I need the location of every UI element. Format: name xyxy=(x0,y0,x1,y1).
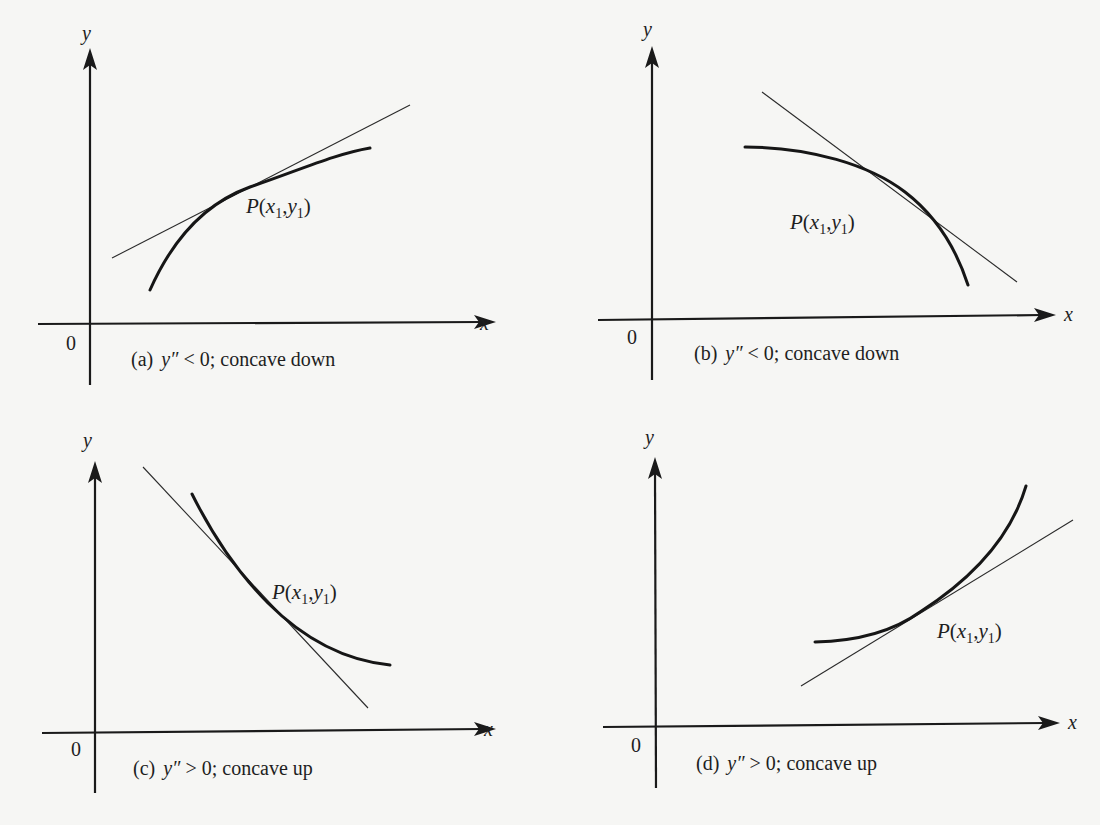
x-axis xyxy=(42,729,482,733)
x-axis-label: x xyxy=(483,718,493,740)
tangent-line xyxy=(801,520,1073,686)
x-axis xyxy=(38,322,482,324)
point-label: P(x1,y1) xyxy=(271,580,337,607)
panel-caption: (c)y″ > 0; concave up xyxy=(133,757,313,780)
panel-b: y x 0 P(x1,y1) (b)y″ < 0; concave down xyxy=(598,18,1073,380)
origin-label: 0 xyxy=(71,738,81,760)
point-label: P(x1,y1) xyxy=(245,194,311,221)
origin-label: 0 xyxy=(631,734,641,756)
x-axis xyxy=(603,723,1046,727)
y-axis xyxy=(655,472,656,788)
curve xyxy=(150,148,370,290)
origin-label: 0 xyxy=(66,332,76,354)
origin-label: 0 xyxy=(627,326,637,348)
y-axis-label: y xyxy=(641,18,652,41)
panel-caption: (b)y″ < 0; concave down xyxy=(694,342,899,365)
tangent-line xyxy=(762,92,1017,282)
panel-a: y x 0 P(x1,y1) (a)y″ < 0; concave down xyxy=(38,22,496,385)
concavity-figure: y x 0 P(x1,y1) (a)y″ < 0; concave down y… xyxy=(0,0,1100,825)
point-label: P(x1,y1) xyxy=(936,619,1002,646)
panel-caption: (a)y″ < 0; concave down xyxy=(131,348,335,371)
panel-c: y x 0 P(x1,y1) (c)y″ > 0; concave up xyxy=(42,429,496,793)
y-axis-label: y xyxy=(643,426,654,449)
tangent-line xyxy=(112,105,410,258)
x-axis-label: x xyxy=(479,312,489,334)
curve xyxy=(745,147,968,285)
point-label: P(x1,y1) xyxy=(789,210,855,237)
y-axis-label: y xyxy=(81,429,92,452)
panel-caption: (d)y″ > 0; concave up xyxy=(696,752,877,775)
y-axis-label: y xyxy=(80,22,91,45)
x-axis-label: x xyxy=(1067,711,1077,733)
panel-d: y x 0 P(x1,y1) (d)y″ > 0; concave up xyxy=(603,426,1077,788)
x-axis xyxy=(598,315,1042,320)
x-axis-label: x xyxy=(1063,303,1073,325)
